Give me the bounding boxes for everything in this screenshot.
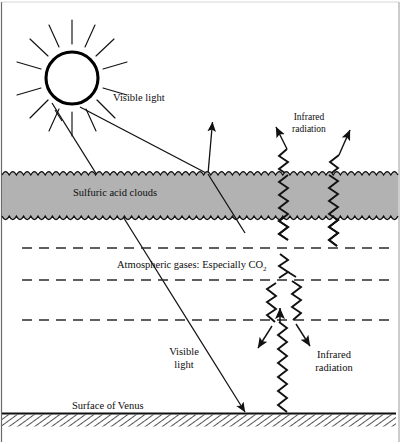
sun-group — [17, 20, 127, 136]
infrared-wave-reradiated-right-arrow — [296, 324, 310, 346]
infrared-wave-surface-up — [278, 322, 287, 412]
label-infrared-top-line2: radiation — [292, 124, 326, 134]
label-infrared-radiation-top: Infrared radiation — [292, 112, 326, 134]
incoming-visible-ray-reflected — [80, 107, 208, 174]
label-infrared-top-line1: Infrared — [294, 112, 325, 122]
label-surface-of-venus: Surface of Venus — [72, 400, 144, 411]
label-infrared-radiation-bottom: Infrared radiation — [315, 349, 353, 373]
label-atmospheric-gases: Atmospheric gases: Especially CO2 — [117, 259, 267, 273]
infrared-waves-lower — [258, 254, 310, 412]
label-visible-light-top: Visible light — [113, 92, 165, 103]
label-sulfuric-acid-clouds: Sulfuric acid clouds — [73, 187, 157, 198]
infrared-wave-reradiated-right — [292, 281, 301, 320]
label-visible-light-bottom-line2: light — [174, 359, 193, 370]
reflected-visible-ray — [208, 122, 213, 174]
infrared-wave-reradiated-left — [267, 283, 276, 322]
visible-light-rays — [52, 103, 245, 412]
surface-hatch-band — [2, 415, 396, 427]
sulfuric-acid-cloud-layer — [2, 172, 398, 220]
infrared-branch-stub-left — [279, 254, 288, 278]
infrared-wave-upper-right-arrow — [339, 130, 350, 155]
sun-disc — [46, 52, 98, 104]
cloud-bottom-scallop — [2, 216, 398, 220]
diagram-canvas: Visible light Infrared radiation — [0, 0, 401, 444]
label-co2-subscript: 2 — [263, 265, 267, 273]
infrared-wave-reradiated-left-arrow — [258, 326, 272, 348]
cloud-top-scallop — [2, 172, 398, 176]
label-visible-light-bottom: Visible light — [169, 346, 199, 370]
label-infrared-bottom-line1: Infrared — [317, 349, 352, 360]
infrared-branch-stub-right — [288, 272, 296, 277]
infrared-wave-upper-left-arrow — [276, 127, 287, 149]
label-atmospheric-gases-text: Atmospheric gases: Especially CO — [117, 259, 264, 270]
venus-surface — [2, 414, 396, 427]
venus-greenhouse-diagram: Visible light Infrared radiation — [0, 0, 401, 444]
label-infrared-bottom-line2: radiation — [315, 362, 353, 373]
incoming-visible-ray-to-surface — [52, 103, 245, 412]
label-visible-light-bottom-line1: Visible — [169, 346, 199, 357]
